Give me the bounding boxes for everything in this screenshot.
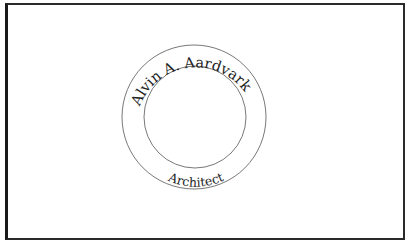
seal-emblem: Alvin A. Aardvark Architect (0, 0, 412, 245)
